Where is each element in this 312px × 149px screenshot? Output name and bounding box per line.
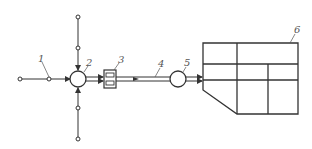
junction-2: 2: [70, 57, 92, 87]
node-1: [47, 77, 51, 81]
top-inlet: [76, 15, 80, 70]
label-5: 5: [184, 57, 190, 68]
label-2: 2: [85, 57, 92, 68]
grid-block-6: [203, 34, 298, 114]
leader-6: [290, 34, 295, 43]
bottom-end-node: [76, 137, 80, 141]
leader-1: [42, 62, 49, 77]
left-end-node: [18, 77, 22, 81]
unit-5: 5: [170, 57, 190, 87]
left-inlet: 1: [18, 53, 70, 81]
top-mid-node: [76, 46, 80, 50]
flow-diagram: 1 2 3 4 5: [0, 0, 312, 149]
box-3: 3: [104, 54, 124, 88]
conduit-2-3: [86, 77, 103, 81]
label-1: 1: [38, 53, 44, 64]
conduit-5-6: [186, 77, 202, 81]
bottom-inlet: [76, 88, 80, 141]
label-4: 4: [157, 58, 164, 69]
top-end-node: [76, 15, 80, 19]
label-3: 3: [118, 54, 124, 65]
leader-4: [155, 68, 160, 77]
label-6: 6: [294, 24, 301, 35]
bottom-mid-node: [76, 106, 80, 110]
